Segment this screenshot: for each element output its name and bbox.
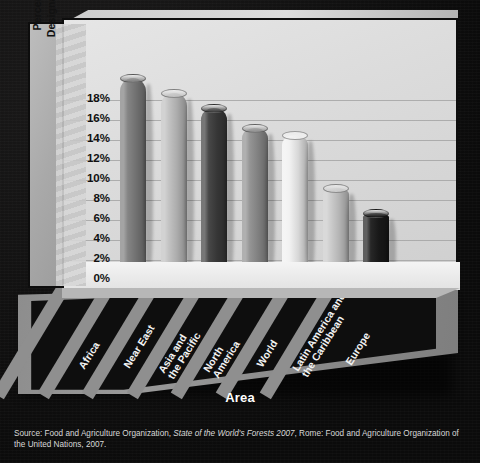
y-axis-tick-label: 16% <box>66 112 110 124</box>
bar-africa <box>120 78 146 278</box>
bar-cap <box>161 89 187 98</box>
y-axis-tick-label: 0% <box>66 272 110 284</box>
bar-shading <box>242 128 268 278</box>
plot-base <box>62 262 460 290</box>
bar-north-america <box>242 128 268 278</box>
y-axis-tick-label: 12% <box>66 152 110 164</box>
bar-cap <box>201 104 227 113</box>
y-axis-tick-label: 8% <box>66 192 110 204</box>
bar-world <box>282 135 308 278</box>
bar-cap <box>282 131 308 140</box>
y-axis-tick-label: 10% <box>66 172 110 184</box>
source-prefix: Source: Food and Agriculture Organizatio… <box>14 429 173 438</box>
y-axis-tick-label: 2% <box>66 252 110 264</box>
bar-cap <box>323 184 349 193</box>
bar-shading <box>201 108 227 278</box>
bar-near-east <box>161 93 187 278</box>
bar-cap <box>242 124 268 133</box>
y-axis-tick-label: 14% <box>66 132 110 144</box>
bar-cap <box>363 209 389 218</box>
bar-cap <box>120 74 146 83</box>
source-note: Source: Food and Agriculture Organizatio… <box>14 428 466 450</box>
bar-shading <box>282 135 308 278</box>
chart-figure: AfricaNear EastAsia andthe PacificNorthA… <box>0 0 480 463</box>
y-axis-tick-labels: 0%2%4%6%8%10%12%14%16%18% <box>14 0 110 463</box>
plot-base-edge <box>62 288 460 298</box>
y-axis-tick-label: 4% <box>66 232 110 244</box>
bar-asia-and-the-pacific <box>201 108 227 278</box>
bar-shading <box>120 78 146 278</box>
source-title: State of the World's Forests 2007 <box>173 429 294 438</box>
y-axis-tick-label: 18% <box>66 92 110 104</box>
y-axis-tick-label: 6% <box>66 212 110 224</box>
bar-shading <box>161 93 187 278</box>
